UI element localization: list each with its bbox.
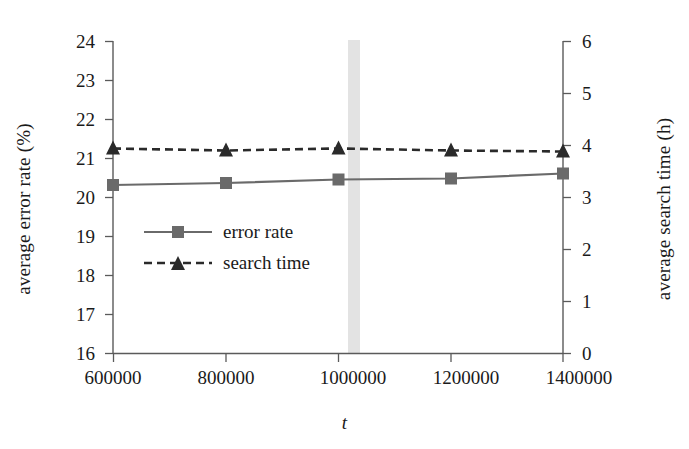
legend-item-error-rate: error rate bbox=[142, 216, 372, 247]
legend-item-search-time: search time bbox=[142, 247, 372, 278]
legend-key-search-time bbox=[142, 253, 214, 273]
series-error-rate-markers bbox=[107, 168, 569, 192]
series-search-time-markers bbox=[106, 141, 570, 158]
y-axis-right-ticks bbox=[563, 42, 571, 354]
legend-label-error-rate: error rate bbox=[223, 221, 293, 243]
legend-key-error-rate bbox=[142, 222, 214, 242]
chart-figure: average error rate (%) average search ti… bbox=[0, 0, 689, 449]
legend-label-search-time: search time bbox=[223, 252, 310, 274]
chart-legend: error rate search time bbox=[142, 216, 372, 278]
x-axis-ticks bbox=[114, 353, 564, 362]
y-axis-left-ticks bbox=[105, 42, 113, 354]
highlight-band bbox=[348, 40, 360, 354]
